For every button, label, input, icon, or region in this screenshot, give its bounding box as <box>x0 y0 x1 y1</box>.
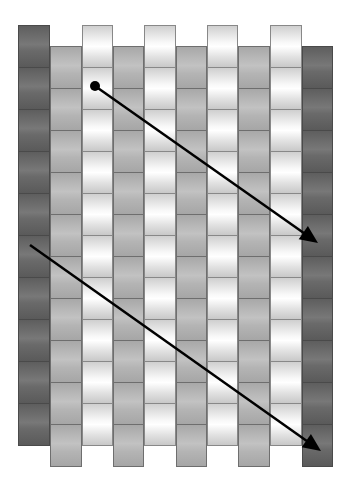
lower-arrow-line <box>30 245 313 445</box>
weave-diagram <box>0 0 351 488</box>
arrowhead-icon <box>302 434 321 451</box>
arrow-layer <box>0 0 351 488</box>
upper-arrow-line <box>95 86 310 237</box>
arrowhead-icon <box>299 226 318 243</box>
start-dot-icon <box>90 81 100 91</box>
